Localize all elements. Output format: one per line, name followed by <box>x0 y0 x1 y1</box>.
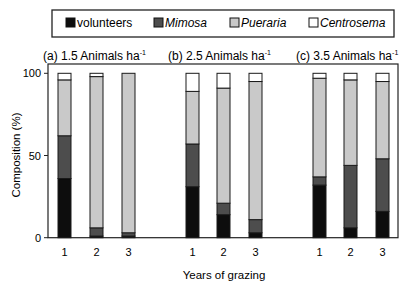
bar-panel1-year2 <box>90 73 103 237</box>
bar-segment-mimosa <box>249 220 262 233</box>
bar-segment-mimosa <box>313 177 326 185</box>
x-tick-label: 1 <box>61 246 67 258</box>
y-tick-label-100: 100 <box>23 67 41 79</box>
legend-label-volunteers: volunteers <box>77 16 132 30</box>
bars <box>58 73 389 237</box>
bar-segment-pueraria <box>249 82 262 220</box>
bar-segment-centrosema <box>186 73 199 91</box>
bar-segment-pueraria <box>344 80 357 165</box>
bar-segment-pueraria <box>90 77 103 228</box>
legend-label-pueraria: Pueraria <box>241 16 287 30</box>
bar-segment-centrosema <box>376 73 389 81</box>
legend-label-centrosema: Centrosema <box>320 16 386 30</box>
bar-segment-mimosa <box>58 136 71 179</box>
legend-swatch-pueraria <box>230 18 239 27</box>
x-tick-label: 2 <box>93 246 99 258</box>
bar-segment-centrosema <box>249 73 262 81</box>
bar-segment-volunteers <box>249 233 262 238</box>
bar-panel3-year2 <box>344 73 357 237</box>
bar-segment-centrosema <box>90 73 103 76</box>
x-tick-label: 3 <box>252 246 258 258</box>
bar-segment-centrosema <box>313 73 326 78</box>
bar-segment-mimosa <box>217 203 230 215</box>
x-axis-title: Years of grazing <box>183 269 266 281</box>
panel-label-c: (c) 3.5 Animals ha-1 <box>296 49 398 63</box>
bar-panel3-year3 <box>376 73 389 237</box>
bar-panel3-year1 <box>313 73 326 237</box>
y-axis-title: Composition (%) <box>10 112 22 197</box>
bar-segment-volunteers <box>313 185 326 238</box>
x-tick-label: 2 <box>220 246 226 258</box>
legend-swatch-centrosema <box>309 18 318 27</box>
x-tick-label: 1 <box>189 246 195 258</box>
y-tick-label-50: 50 <box>29 150 41 162</box>
bar-panel2-year2 <box>217 73 230 237</box>
bar-segment-centrosema <box>344 73 357 80</box>
bar-segment-pueraria <box>313 78 326 177</box>
bar-segment-centrosema <box>58 73 71 80</box>
y-axis: 0 50 100 Composition (%) <box>10 67 48 243</box>
panel-label-a: (a) 1.5 Animals ha-1 <box>43 49 146 63</box>
bar-segment-mimosa <box>90 228 103 236</box>
bar-segment-pueraria <box>186 91 199 144</box>
bar-panel1-year3 <box>122 73 135 237</box>
x-tick-label: 1 <box>316 246 322 258</box>
bar-panel2-year3 <box>249 73 262 237</box>
legend-swatch-mimosa <box>154 18 163 27</box>
stacked-bar-chart: volunteers Mimosa Pueraria Centrosema (a… <box>0 0 412 294</box>
bar-segment-mimosa <box>376 159 389 212</box>
bar-segment-volunteers <box>344 228 357 238</box>
panel-label-b: (b) 2.5 Animals ha-1 <box>168 49 271 63</box>
bar-segment-volunteers <box>58 179 71 238</box>
legend-swatch-volunteers <box>66 18 75 27</box>
bar-panel1-year1 <box>58 73 71 237</box>
legend-label-mimosa: Mimosa <box>165 16 207 30</box>
bar-segment-volunteers <box>186 187 199 238</box>
x-axis-labels: 123123123 <box>61 246 385 258</box>
bar-segment-centrosema <box>217 73 230 88</box>
y-tick-label-0: 0 <box>35 232 41 244</box>
legend-item-centrosema: Centrosema <box>309 16 386 30</box>
bar-panel2-year1 <box>186 73 199 237</box>
bar-segment-volunteers <box>217 215 230 238</box>
bar-segment-pueraria <box>58 80 71 136</box>
bar-segment-mimosa <box>186 144 199 187</box>
bar-segment-pueraria <box>376 82 389 159</box>
x-tick-label: 3 <box>379 246 385 258</box>
bar-segment-pueraria <box>122 73 135 232</box>
legend: volunteers Mimosa Pueraria Centrosema <box>52 10 394 37</box>
bar-segment-volunteers <box>376 211 389 237</box>
x-tick-label: 2 <box>347 246 353 258</box>
bar-segment-pueraria <box>217 88 230 203</box>
bar-segment-mimosa <box>344 165 357 227</box>
x-tick-label: 3 <box>125 246 131 258</box>
